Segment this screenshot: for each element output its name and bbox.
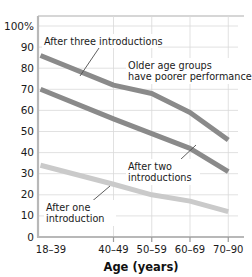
y-tick-label: 30	[21, 167, 34, 179]
annotation-text-line1: Older age groups	[128, 60, 212, 71]
y-tick-label: 100%	[4, 20, 34, 32]
y-tick-label: 0	[27, 231, 34, 243]
annotation-text-line2: introduction	[46, 213, 105, 224]
y-axis-tick-labels: 100% 90 80 70 60 50 40 30 20 10 0	[4, 20, 34, 243]
x-axis-title: Age (years)	[103, 260, 178, 274]
annotation-text-line2: have poorer performance	[128, 71, 252, 82]
y-tick-label: 90	[21, 41, 34, 53]
y-tick-label: 80	[21, 62, 34, 74]
y-tick-label: 50	[21, 125, 34, 137]
x-tick-label: 18–39	[36, 244, 66, 255]
y-tick-label: 70	[21, 83, 34, 95]
x-tick-label: 70–90	[213, 244, 243, 255]
y-tick-label: 10	[21, 209, 34, 221]
y-tick-label: 40	[21, 146, 34, 158]
x-axis-tick-labels: 18–39 40–49 50–59 60–69 70–90	[36, 244, 244, 255]
annotation-text-line1: After one	[46, 202, 90, 213]
annotation-older-age-groups: Older age groups have poorer performance	[126, 58, 252, 84]
x-tick-label: 60–69	[175, 244, 205, 255]
annotation-text-line2: introductions	[128, 172, 192, 183]
line-chart: 100% 90 80 70 60 50 40 30 20 10 0 18–39 …	[0, 0, 252, 277]
x-tick-label: 40–49	[98, 244, 128, 255]
y-tick-label: 20	[21, 188, 34, 200]
y-tick-label: 60	[21, 104, 34, 116]
x-tick-label: 50–59	[137, 244, 167, 255]
chart-container: 100% 90 80 70 60 50 40 30 20 10 0 18–39 …	[0, 0, 252, 277]
annotation-text-line1: After two	[128, 161, 172, 172]
annotation-text: After three introductions	[44, 36, 163, 47]
